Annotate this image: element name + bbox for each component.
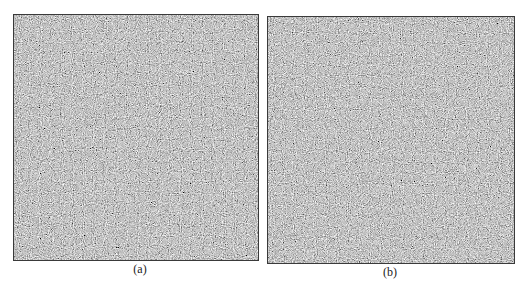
figure-panel-a — [13, 14, 259, 261]
noise-texture-a — [14, 15, 258, 260]
noise-texture-b — [268, 17, 514, 263]
figure-panel-b — [267, 16, 515, 264]
caption-a: (a) — [120, 262, 160, 277]
caption-b: (b) — [370, 265, 410, 280]
